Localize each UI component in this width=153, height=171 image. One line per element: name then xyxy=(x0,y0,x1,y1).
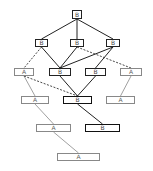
node-b-n0: B xyxy=(72,10,82,19)
node-label: A xyxy=(76,154,80,160)
edge-n9-n12 xyxy=(78,104,103,124)
node-b-n9: B xyxy=(63,96,92,104)
node-label: B xyxy=(39,40,43,46)
node-b-n2: B xyxy=(70,39,84,47)
edge-n11-n13 xyxy=(54,132,79,153)
edge-n5-n9 xyxy=(60,76,78,96)
edge-n6-n9 xyxy=(78,76,96,96)
node-label: A xyxy=(118,97,122,103)
edge-n7-n10 xyxy=(121,76,132,96)
node-a-n7: A xyxy=(120,68,142,76)
node-label: B xyxy=(100,125,104,131)
node-a-n13: A xyxy=(57,153,100,161)
node-b-n1: B xyxy=(35,39,48,47)
node-label: B xyxy=(93,69,97,75)
node-label: B xyxy=(75,40,79,46)
node-a-n10: A xyxy=(106,96,135,104)
edge-n8-n11 xyxy=(35,104,54,124)
node-b-n3: B xyxy=(106,39,120,47)
node-b-n5: B xyxy=(49,68,71,76)
edge-n0-n3 xyxy=(77,19,113,39)
edge-layer xyxy=(0,0,153,171)
edge-n4-n8 xyxy=(24,76,35,96)
node-a-n11: A xyxy=(36,124,71,132)
node-b-n6: B xyxy=(85,68,106,76)
edge-n1-n5 xyxy=(42,47,61,68)
node-label: A xyxy=(129,69,133,75)
edge-n1-n4 xyxy=(24,47,42,68)
node-b-n12: B xyxy=(85,124,120,132)
edge-n4-n9 xyxy=(24,76,78,96)
node-a-n4: A xyxy=(14,68,34,76)
node-label: A xyxy=(22,69,26,75)
node-label: B xyxy=(75,97,79,103)
node-label: B xyxy=(58,69,62,75)
node-label: B xyxy=(75,12,79,18)
node-label: A xyxy=(51,125,55,131)
edge-n0-n1 xyxy=(42,19,78,39)
node-label: A xyxy=(33,97,37,103)
node-a-n8: A xyxy=(21,96,49,104)
node-label: B xyxy=(111,40,115,46)
